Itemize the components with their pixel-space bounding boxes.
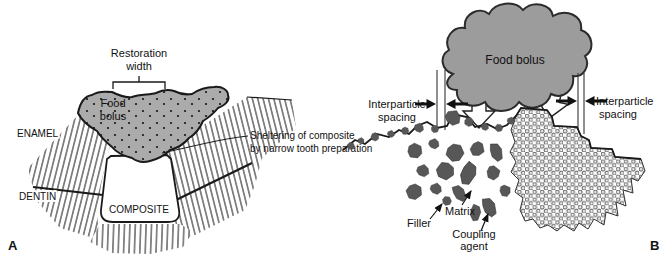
panel-a: Restoration width Food bolus ENAMEL DENT… [8, 47, 372, 254]
root-hatch-fan [90, 224, 193, 254]
coupling-agent-label-line1: Coupling [452, 228, 495, 240]
restoration-width-bracket [113, 76, 165, 89]
dentin-label: DENTIN [19, 191, 56, 202]
composite-label: COMPOSITE [109, 204, 169, 215]
interparticle-right-label-line2: spacing [599, 108, 637, 120]
interparticle-right-label-line1: Interparticle [596, 95, 653, 107]
panel-b: Food bolus [343, 4, 659, 253]
dental-composite-figure: Restoration width Food bolus ENAMEL DENT… [0, 0, 671, 262]
enamel-label: ENAMEL [17, 128, 59, 139]
spacing-lines-right [578, 73, 584, 134]
interparticle-left-label-line2: spacing [378, 111, 416, 123]
figure-svg: Restoration width Food bolus ENAMEL DENT… [0, 0, 671, 262]
interparticle-left-label-line1: Interparticle [368, 98, 425, 110]
spacing-lines-left [437, 70, 445, 130]
restoration-width-label-line1: Restoration [111, 47, 167, 59]
restoration-width-label-line2: width [125, 60, 152, 72]
panel-a-letter: A [8, 238, 18, 253]
food-bolus-label-a-line1: Food [100, 97, 125, 109]
matrix-label: Matrix [445, 205, 475, 217]
food-bolus-label-b: Food bolus [485, 53, 544, 67]
filler-label: Filler [407, 217, 431, 229]
food-bolus-label-a-line2: bolus [100, 110, 127, 122]
filler-pointer-arrow [430, 204, 442, 219]
panel-b-letter: B [650, 238, 659, 253]
sheltering-label-line1: Sheltering of composite [250, 130, 355, 141]
coupling-agent-label-line2: agent [460, 240, 488, 252]
